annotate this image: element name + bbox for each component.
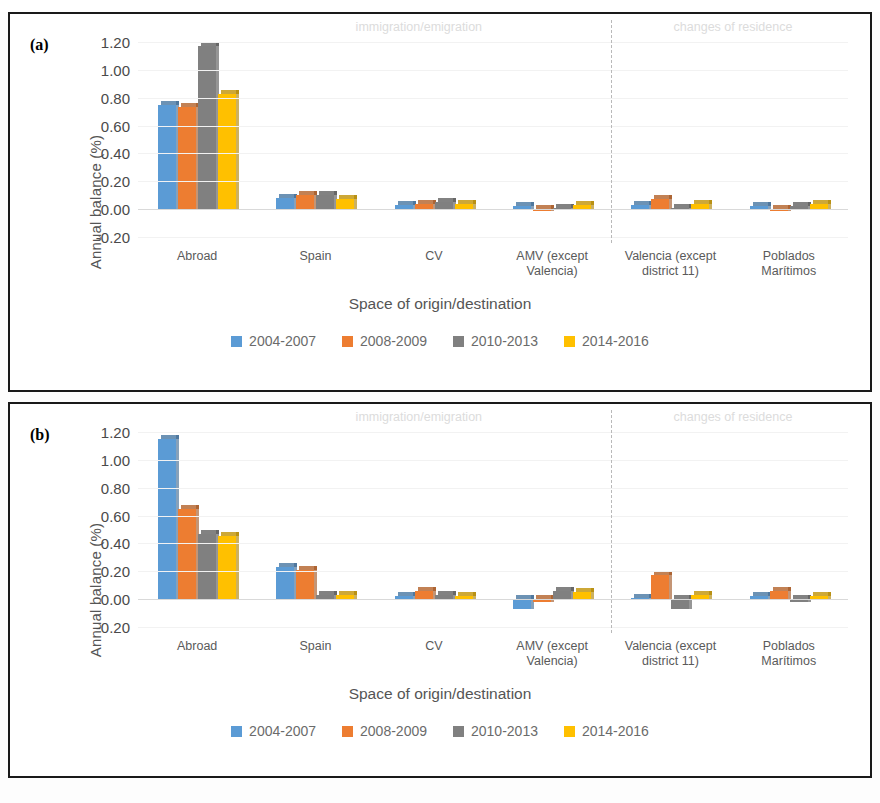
bar[interactable] — [651, 199, 669, 209]
bar[interactable] — [178, 509, 196, 600]
y-tick-label: 1.20 — [101, 34, 130, 51]
y-tick-label: 0.60 — [101, 117, 130, 134]
bar-set — [730, 432, 848, 627]
legend-label: 2010-2013 — [471, 333, 538, 349]
annotation-immigration-emigration: immigration/emigration — [356, 410, 482, 424]
bar-face — [178, 509, 196, 600]
bar-side-face — [669, 571, 672, 599]
y-tick-label: 0.80 — [101, 89, 130, 106]
bar[interactable] — [158, 105, 176, 209]
y-tick-label: 0.40 — [101, 145, 130, 162]
x-tick-label: Spain — [256, 639, 374, 669]
bar-side-face — [531, 595, 534, 609]
x-axis-labels-a: AbroadSpainCVAMV (exceptValencia)Valenci… — [138, 249, 848, 279]
chart-panel-b: (b) Annual balance (%) 1.201.000.800.600… — [8, 402, 872, 778]
bar-set — [138, 432, 256, 627]
legend-item[interactable]: 2010-2013 — [453, 723, 538, 739]
bar-face — [158, 105, 176, 209]
bar-side-face — [591, 588, 594, 599]
bar-side-face — [709, 200, 712, 210]
y-tick-label: 1.20 — [101, 424, 130, 441]
bar-face — [178, 107, 196, 209]
y-tick-label: 0.80 — [101, 479, 130, 496]
annotation-changes-of-residence: changes of residence — [674, 410, 793, 424]
x-tick-label: Spain — [256, 249, 374, 279]
legend-label: 2004-2007 — [249, 723, 316, 739]
legend-item[interactable]: 2010-2013 — [453, 333, 538, 349]
bar[interactable] — [218, 536, 236, 599]
bar[interactable] — [178, 107, 196, 209]
legend-label: 2014-2016 — [582, 333, 649, 349]
bar[interactable] — [671, 599, 689, 609]
bar-face — [435, 202, 453, 209]
gridline — [138, 126, 848, 127]
bar-side-face — [591, 201, 594, 209]
legend-label: 2014-2016 — [582, 723, 649, 739]
x-tick-label-line: CV — [375, 639, 493, 654]
legend-item[interactable]: 2004-2007 — [231, 333, 316, 349]
bar[interactable] — [435, 202, 453, 209]
bar-set — [375, 432, 493, 627]
bar[interactable] — [158, 439, 176, 599]
bar[interactable] — [513, 599, 531, 609]
bar-side-face — [531, 202, 534, 209]
bar-side-face — [768, 202, 771, 209]
gridline — [138, 98, 848, 99]
bar-set — [256, 432, 374, 627]
bar-groups-a — [138, 42, 848, 237]
legend-item[interactable]: 2014-2016 — [564, 723, 649, 739]
y-tick-label: 0.60 — [101, 507, 130, 524]
x-tick-label-line: Marítimos — [730, 264, 848, 279]
x-axis-labels-b: AbroadSpainCVAMV (exceptValencia)Valenci… — [138, 639, 848, 669]
gridline — [138, 488, 848, 489]
gridline — [138, 70, 848, 71]
plot-wrapper-b: Annual balance (%) 1.201.000.800.600.400… — [10, 404, 870, 776]
legend-b: 2004-20072008-20092010-20132014-2016 — [10, 723, 870, 739]
y-tick-label: 0.20 — [101, 563, 130, 580]
legend-item[interactable]: 2014-2016 — [564, 333, 649, 349]
bar-set — [138, 42, 256, 237]
bar-face — [651, 575, 669, 599]
bar[interactable] — [553, 591, 571, 599]
x-tick-label: Valencia (exceptdistrict 11) — [611, 639, 729, 669]
gridline — [138, 516, 848, 517]
bar[interactable] — [573, 592, 591, 599]
zero-axis-line — [138, 599, 848, 600]
bar-group — [730, 432, 848, 627]
legend-item[interactable]: 2004-2007 — [231, 723, 316, 739]
y-tick-label: -0.20 — [96, 229, 130, 246]
bar[interactable] — [296, 195, 314, 209]
bar-set — [256, 42, 374, 237]
zero-axis-line — [138, 209, 848, 210]
bar[interactable] — [218, 94, 236, 210]
x-tick-label-line: district 11) — [611, 654, 729, 669]
annotation-immigration-emigration: immigration/emigration — [356, 20, 482, 34]
bar[interactable] — [770, 591, 788, 599]
section-divider — [611, 410, 612, 633]
bar-side-face — [236, 90, 239, 210]
bar-group — [611, 42, 729, 237]
bar[interactable] — [336, 199, 354, 209]
bar-group — [493, 432, 611, 627]
x-tick-label-line: Marítimos — [730, 654, 848, 669]
bar[interactable] — [651, 575, 669, 599]
x-tick-label: PobladosMarítimos — [730, 249, 848, 279]
bar[interactable] — [276, 198, 294, 209]
bar-set — [493, 42, 611, 237]
bar-side-face — [828, 592, 831, 599]
bar-face — [770, 591, 788, 599]
bar[interactable] — [415, 591, 433, 599]
bar[interactable] — [316, 195, 334, 209]
bar[interactable] — [296, 570, 314, 599]
legend-swatch — [453, 726, 464, 737]
y-tick-label: 1.00 — [101, 451, 130, 468]
figure-page: (a) Annual balance (%) 1.201.000.800.600… — [0, 12, 880, 803]
legend-swatch — [231, 336, 242, 347]
bar-group — [256, 432, 374, 627]
legend-item[interactable]: 2008-2009 — [342, 333, 427, 349]
y-tick-label: -0.20 — [96, 619, 130, 636]
bar-side-face — [354, 591, 357, 599]
legend-swatch — [231, 726, 242, 737]
y-tick-label: 0.20 — [101, 173, 130, 190]
legend-item[interactable]: 2008-2009 — [342, 723, 427, 739]
